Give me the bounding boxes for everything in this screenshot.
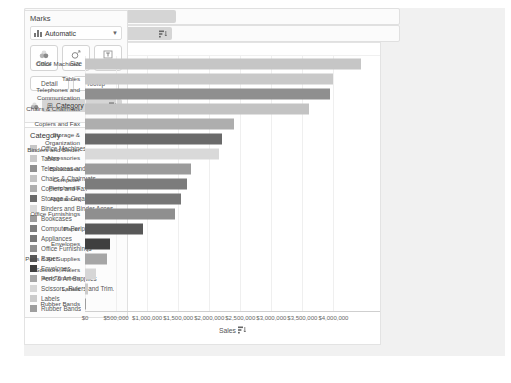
- sort-descending-icon[interactable]: [238, 326, 246, 334]
- bar-area: [85, 266, 380, 281]
- chart-row: Labels: [25, 281, 380, 296]
- chart-row: Telephones and Communication: [25, 86, 380, 101]
- chart-row: Tables: [25, 71, 380, 86]
- bar-mark[interactable]: [85, 103, 309, 114]
- bar-area: [85, 191, 380, 206]
- bar-area: [85, 281, 380, 296]
- workspace: Marks Automatic ▼ Color Size: [24, 8, 505, 356]
- category-axis-label[interactable]: Pens & Art Supplies: [25, 255, 85, 262]
- x-axis-title[interactable]: Sales: [219, 327, 236, 334]
- axis-tick-label: $500,000: [104, 315, 129, 321]
- bar-area: [85, 206, 380, 221]
- category-axis-label[interactable]: Rubber Bands: [25, 300, 85, 307]
- category-axis-label[interactable]: Chairs & Chairmats: [25, 105, 85, 112]
- category-axis-label[interactable]: Telephones and Communication: [25, 86, 85, 100]
- bar-mark[interactable]: [85, 223, 143, 234]
- bar-area: [85, 56, 380, 71]
- category-axis-label[interactable]: Labels: [25, 285, 85, 292]
- category-axis-label[interactable]: Bookcases: [25, 165, 85, 172]
- bar-mark[interactable]: [85, 73, 333, 84]
- chart-row: Computer Peripherals: [25, 176, 380, 191]
- bar-area: [85, 251, 380, 266]
- bar-mark[interactable]: [85, 163, 191, 174]
- mark-type-dropdown[interactable]: Automatic ▼: [30, 26, 122, 40]
- bar-area: [85, 176, 380, 191]
- bar-area: [85, 221, 380, 236]
- chart-row: Chairs & Chairmats: [25, 101, 380, 116]
- bar-area: [85, 296, 380, 311]
- bar-mark[interactable]: [85, 148, 219, 159]
- bar-area: [85, 71, 380, 86]
- category-axis-label[interactable]: Binders and Binder Accessories: [25, 146, 85, 160]
- bar-mark[interactable]: [85, 268, 96, 279]
- chart-row: Office Machines: [25, 56, 380, 71]
- bar-mark[interactable]: [85, 58, 361, 69]
- bar-mark[interactable]: [85, 118, 234, 129]
- bar-mark[interactable]: [85, 193, 181, 204]
- chart-row: Office Furnishings: [25, 206, 380, 221]
- axis-tick-label: $2,000,000: [194, 315, 224, 321]
- chart-row: Bookcases: [25, 161, 380, 176]
- bar-mark[interactable]: [85, 133, 222, 144]
- category-axis-label[interactable]: Appliances: [25, 195, 85, 202]
- bar-mark[interactable]: [85, 298, 86, 309]
- bar-mark[interactable]: [85, 253, 107, 264]
- chevron-down-icon: ▼: [112, 30, 118, 36]
- category-axis-label[interactable]: Copiers and Fax: [25, 120, 85, 127]
- category-axis-label[interactable]: Storage & Organization: [25, 131, 85, 145]
- chart-row: Copiers and Fax: [25, 116, 380, 131]
- axis-tick-label: $3,500,000: [287, 315, 317, 321]
- category-axis-label[interactable]: Envelopes: [25, 240, 85, 247]
- bar-area: [85, 101, 380, 116]
- bar-area: [85, 161, 380, 176]
- bar-mark[interactable]: [85, 238, 110, 249]
- bar-area: [85, 146, 380, 161]
- chart-row: Appliances: [25, 191, 380, 206]
- chart-row: Rubber Bands: [25, 296, 380, 311]
- axis-tick-label: $0: [82, 315, 89, 321]
- bar-area: [85, 131, 380, 146]
- category-axis-label[interactable]: Paper: [25, 225, 85, 232]
- sort-descending-icon[interactable]: [159, 30, 167, 38]
- chart-row: Scissors, Rulers and Trimmers: [25, 266, 380, 281]
- bar-area: [85, 116, 380, 131]
- bar-mark[interactable]: [85, 283, 88, 294]
- axis-tick-label: $2,500,000: [225, 315, 255, 321]
- category-axis-label[interactable]: Scissors, Rulers and Trimmers: [25, 266, 85, 280]
- bar-area: [85, 236, 380, 251]
- x-axis: $0$500,000$1,000,000$1,500,000$2,000,000…: [25, 311, 380, 344]
- chart-row: Pens & Art Supplies: [25, 251, 380, 266]
- category-axis-label[interactable]: Tables: [25, 75, 85, 82]
- bar-chart: Category Office MachinesTablesTelephones…: [24, 42, 381, 345]
- chart-row: Storage & Organization: [25, 131, 380, 146]
- category-axis-label[interactable]: Office Furnishings: [25, 210, 85, 217]
- chart-row: Envelopes: [25, 236, 380, 251]
- chart-row: Binders and Binder Accessories: [25, 146, 380, 161]
- bar-area: [85, 86, 380, 101]
- axis-tick-label: $1,000,000: [132, 315, 162, 321]
- bar-mark[interactable]: [85, 178, 187, 189]
- category-axis-label[interactable]: Office Machines: [25, 60, 85, 67]
- mark-type-value: Automatic: [45, 30, 109, 37]
- chart-rows: Office MachinesTablesTelephones and Comm…: [25, 56, 380, 311]
- axis-tick-label: $3,000,000: [256, 315, 286, 321]
- marks-card-title: Marks: [30, 14, 122, 23]
- axis-tick-label: $4,000,000: [318, 315, 348, 321]
- bar-mark[interactable]: [85, 88, 330, 99]
- bar-chart-icon: [34, 29, 42, 37]
- bar-mark[interactable]: [85, 208, 175, 219]
- axis-tick-label: $1,500,000: [163, 315, 193, 321]
- chart-row: Paper: [25, 221, 380, 236]
- category-axis-label[interactable]: Computer Peripherals: [25, 176, 85, 190]
